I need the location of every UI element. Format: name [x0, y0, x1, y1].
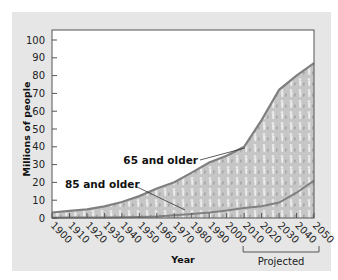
y-tick-label: 60: [32, 106, 45, 117]
y-tick-label: 100: [26, 35, 45, 46]
annotation-65-and-older: 65 and older: [123, 154, 198, 166]
projected-label: Projected: [258, 256, 305, 267]
y-tick-label: 40: [32, 141, 45, 152]
y-tick-label: 80: [32, 70, 45, 81]
x-axis-title: Year: [170, 254, 195, 265]
y-tick-label: 10: [32, 195, 45, 206]
y-tick-label: 90: [32, 52, 45, 63]
y-tick-label: 0: [39, 213, 45, 224]
projected-bracket: [243, 246, 319, 252]
y-tick-label: 30: [32, 159, 45, 170]
population-chart: 0102030405060708090100190019101920193019…: [0, 0, 338, 280]
annotation-85-and-older: 85 and older: [65, 178, 140, 190]
y-tick-label: 50: [32, 124, 45, 135]
y-tick-label: 70: [32, 88, 45, 99]
y-tick-label: 20: [32, 177, 45, 188]
y-axis-title: Millions of people: [21, 82, 32, 177]
